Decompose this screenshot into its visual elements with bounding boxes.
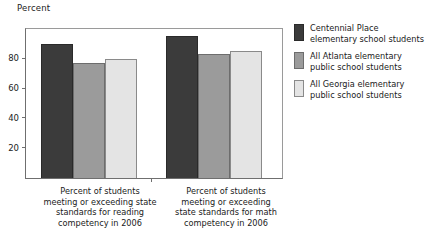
legend-label-line: All Georgia elementary xyxy=(310,79,404,89)
x-category-line: meeting or exceeding xyxy=(160,197,292,208)
legend-label-georgia: All Georgia elementary public school stu… xyxy=(310,79,404,100)
legend-label-line: public school students xyxy=(310,62,402,72)
legend-item-centennial: Centennial Place elementary school stude… xyxy=(294,23,430,44)
bar-reading-centennial xyxy=(41,44,73,178)
legend-label-line: public school students xyxy=(310,90,402,100)
y-tick-label-40: 40 xyxy=(8,113,19,123)
bar-math-georgia xyxy=(230,51,262,178)
y-tick-label-20: 20 xyxy=(8,143,19,153)
x-axis-group-separator-tick xyxy=(151,178,152,182)
y-axis-title: Percent xyxy=(17,3,50,13)
legend-item-georgia: All Georgia elementary public school stu… xyxy=(294,79,430,100)
legend-item-atlanta: All Atlanta elementary public school stu… xyxy=(294,51,430,72)
bar-math-centennial xyxy=(166,36,198,178)
legend-label-line: elementary school students xyxy=(310,34,424,44)
plot-area: 80 60 40 20 xyxy=(25,28,283,179)
x-category-label-reading: Percent of students meeting or exceeding… xyxy=(34,186,166,228)
legend-label-line: Centennial Place xyxy=(310,23,379,33)
x-category-line: standards for reading xyxy=(34,207,166,218)
x-category-line: competency in 2006 xyxy=(160,218,292,229)
bar-math-atlanta xyxy=(198,54,230,178)
y-tick-label-60: 60 xyxy=(8,83,19,93)
legend-swatch-icon-centennial xyxy=(294,24,304,41)
bars-layer xyxy=(26,29,282,178)
bar-group-math xyxy=(166,29,262,178)
bar-reading-atlanta xyxy=(73,63,105,178)
x-category-line: Percent of students xyxy=(160,186,292,197)
legend-label-line: All Atlanta elementary xyxy=(310,51,402,61)
x-category-line: competency in 2006 xyxy=(34,218,166,229)
y-tick-label-80: 80 xyxy=(8,53,19,63)
bar-reading-georgia xyxy=(105,59,137,178)
legend-swatch-icon-georgia xyxy=(294,80,304,97)
legend-label-centennial: Centennial Place elementary school stude… xyxy=(310,23,424,44)
x-category-line: state standards for math xyxy=(160,207,292,218)
chart-legend: Centennial Place elementary school stude… xyxy=(294,23,430,107)
legend-swatch-icon-atlanta xyxy=(294,52,304,69)
bar-chart-figure: Percent 80 60 40 20 xyxy=(0,0,431,243)
x-category-label-math: Percent of students meeting or exceeding… xyxy=(160,186,292,228)
legend-label-atlanta: All Atlanta elementary public school stu… xyxy=(310,51,402,72)
bar-group-reading xyxy=(41,29,137,178)
x-category-line: meeting or exceeding state xyxy=(34,197,166,208)
x-category-line: Percent of students xyxy=(34,186,166,197)
